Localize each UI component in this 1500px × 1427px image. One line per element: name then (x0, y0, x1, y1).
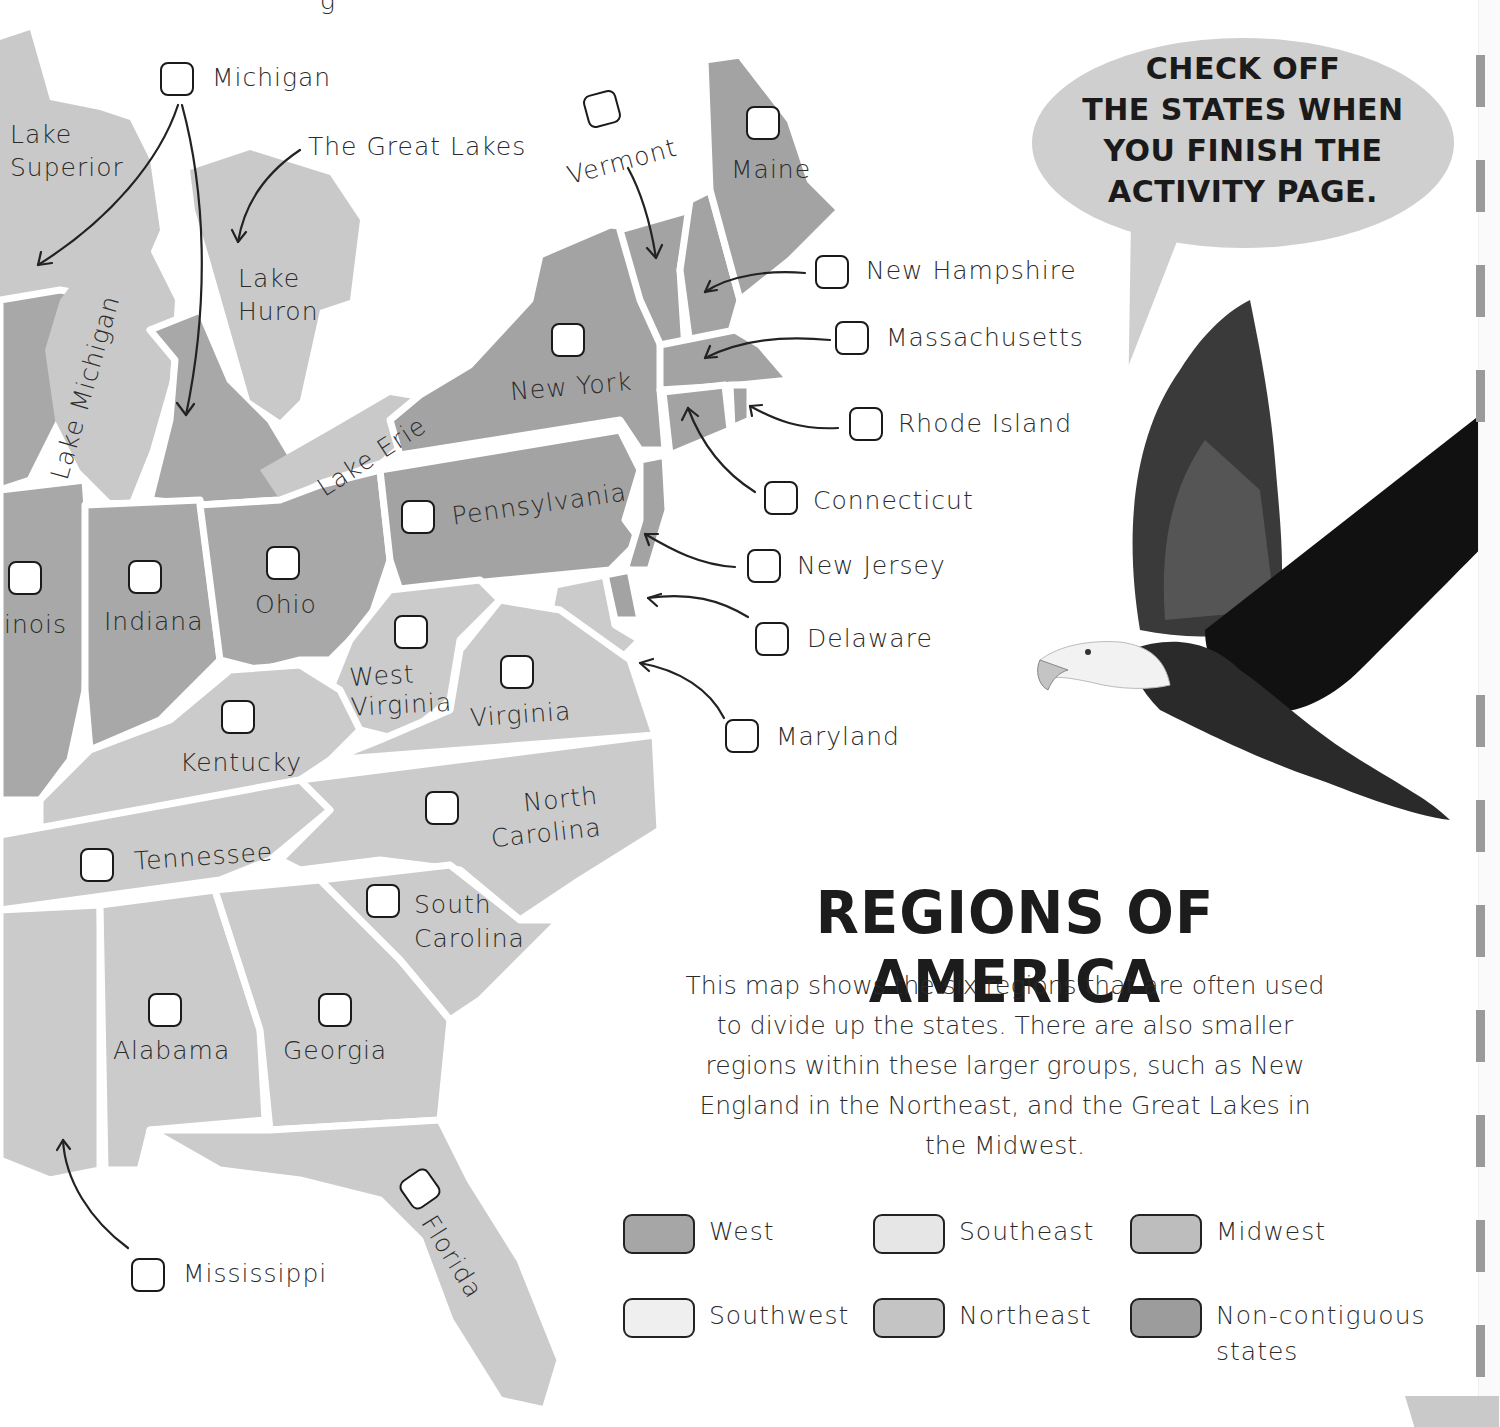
illinois-state (0, 480, 90, 800)
arrow-maryland (640, 663, 724, 718)
speech-bubble-text: CHECK OFF THE STATES WHEN YOU FINISH THE… (1062, 48, 1424, 212)
indiana-checkbox[interactable] (128, 560, 162, 594)
illinois-checkbox[interactable] (8, 561, 42, 595)
legend-item-southwest: Southwest (623, 1298, 849, 1338)
legend-item-west: West (623, 1214, 774, 1254)
partial-header-text: g (320, 0, 336, 16)
tennessee-checkbox[interactable] (80, 848, 114, 882)
legend-swatch-southwest (623, 1298, 695, 1338)
georgia-label: Georgia (283, 1036, 387, 1066)
new-york-checkbox[interactable] (551, 323, 585, 357)
legend-item-southeast: Southeast (873, 1214, 1094, 1254)
delaware-label: Delaware (807, 624, 933, 654)
south-carolina-checkbox[interactable] (366, 884, 400, 918)
indiana-label: Indiana (104, 607, 204, 637)
new-hampshire-checkbox[interactable] (815, 255, 849, 289)
legend-swatch-northeast (873, 1298, 945, 1338)
legend-swatch-southeast (873, 1214, 945, 1254)
west-virginia-checkbox[interactable] (394, 615, 428, 649)
kentucky-label: Kentucky (180, 748, 302, 778)
west-virginia-label: West Virginia (349, 657, 462, 723)
legend-label-southwest: Southwest (709, 1298, 849, 1334)
edge-tab (1476, 800, 1485, 852)
michigan-checkbox[interactable] (160, 62, 194, 96)
pennsylvania-checkbox[interactable] (401, 500, 435, 534)
lake-superior-label: Lake Superior (10, 118, 140, 184)
ohio-label: Ohio (255, 590, 317, 620)
legend-label-northeast: Northeast (959, 1298, 1091, 1334)
legend-swatch-midwest (1130, 1214, 1202, 1254)
ohio-checkbox[interactable] (266, 546, 300, 580)
connecticut-checkbox[interactable] (764, 481, 798, 515)
connecticut-label: Connecticut (813, 486, 974, 516)
new-jersey-checkbox[interactable] (747, 549, 781, 583)
edge-tab (1476, 55, 1485, 107)
edge-tab (1476, 905, 1485, 957)
kentucky-checkbox[interactable] (221, 700, 255, 734)
edge-tab (1476, 160, 1485, 212)
edge-tab (1476, 1220, 1485, 1272)
edge-tab (1476, 265, 1485, 317)
mississippi-state (0, 905, 100, 1180)
edge-tab (1476, 1115, 1485, 1167)
illinois-label: inois (4, 610, 67, 640)
legend-label-midwest: Midwest (1216, 1214, 1326, 1250)
maryland-checkbox[interactable] (725, 719, 759, 753)
page-corner-tab (1405, 1396, 1499, 1427)
edge-tab (1476, 370, 1485, 422)
virginia-checkbox[interactable] (500, 655, 534, 689)
maine-checkbox[interactable] (746, 106, 780, 140)
rhode-island-state (730, 385, 750, 428)
lake-huron-label: Lake Huron (238, 262, 328, 328)
legend-item-midwest: Midwest (1130, 1214, 1326, 1254)
legend-label-west: West (709, 1214, 774, 1250)
arrow-delaware (648, 596, 748, 617)
edge-tab (1476, 1325, 1485, 1377)
legend-item-northeast: Northeast (873, 1298, 1091, 1338)
georgia-checkbox[interactable] (318, 993, 352, 1027)
delaware-checkbox[interactable] (755, 622, 789, 656)
rhode-island-checkbox[interactable] (849, 407, 883, 441)
great-lakes-label: The Great Lakes (308, 132, 526, 162)
maryland-label: Maryland (776, 722, 900, 752)
north-carolina-checkbox[interactable] (425, 791, 459, 825)
legend-label-non-contiguous: Non-contiguous states (1216, 1298, 1436, 1370)
mississippi-checkbox[interactable] (131, 1258, 165, 1292)
alabama-checkbox[interactable] (148, 993, 182, 1027)
legend-label-southeast: Southeast (959, 1214, 1094, 1250)
north-carolina-label: North Carolina (477, 780, 603, 856)
new-hampshire-label: New Hampshire (866, 256, 1077, 286)
legend-item-non-contiguous: Non-contiguous states (1130, 1298, 1436, 1370)
section-description: This map shows the six regions that are … (680, 966, 1330, 1166)
mississippi-label: Mississippi (183, 1259, 327, 1289)
massachusetts-checkbox[interactable] (835, 321, 869, 355)
maine-label: Maine (731, 155, 811, 185)
legend-swatch-non-contiguous (1130, 1298, 1202, 1338)
edge-tab (1476, 1010, 1485, 1062)
alabama-label: Alabama (113, 1036, 230, 1066)
south-carolina-label: South Carolina (414, 888, 524, 956)
connecticut-state (663, 385, 730, 455)
legend-swatch-west (623, 1214, 695, 1254)
edge-tab (1476, 695, 1485, 747)
bald-eagle-image (1030, 290, 1499, 830)
new-jersey-label: New Jersey (797, 551, 946, 581)
michigan-label: Michigan (212, 63, 331, 93)
arrow-rhode-island (750, 406, 838, 428)
